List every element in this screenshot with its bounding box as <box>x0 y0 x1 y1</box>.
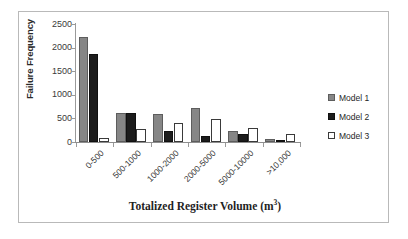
bar-group <box>76 24 113 142</box>
bar <box>164 131 174 142</box>
legend-item[interactable]: Model 3 <box>328 126 386 145</box>
x-axis-tick-mark <box>188 143 189 147</box>
bar <box>248 128 258 142</box>
x-axis-title-suffix: ) <box>277 200 281 212</box>
legend-swatch-model-2-icon <box>328 113 335 120</box>
bar <box>126 113 136 142</box>
x-axis-tick-mark <box>76 143 77 147</box>
bar <box>79 37 89 142</box>
legend-item[interactable]: Model 1 <box>328 88 386 107</box>
plot-area <box>76 24 300 142</box>
y-axis-tick-mark <box>71 142 75 143</box>
y-axis-tick-labels: 05001000150020002500 <box>36 18 72 148</box>
legend-swatch-model-1-icon <box>328 94 335 101</box>
legend-label: Model 3 <box>339 131 369 141</box>
legend-item[interactable]: Model 2 <box>328 107 386 126</box>
bar-group <box>263 24 300 142</box>
bar <box>174 123 184 142</box>
x-axis-tick-mark <box>151 143 152 147</box>
bar <box>286 134 296 142</box>
x-axis-tick-mark <box>300 143 301 147</box>
bar <box>276 140 286 142</box>
y-axis-tick-mark <box>71 118 75 119</box>
y-axis-tick-label: 500 <box>36 113 72 124</box>
y-axis-tick-mark <box>71 48 75 49</box>
y-axis-tick-mark <box>71 24 75 25</box>
chart-legend: Model 1 Model 2 Model 3 <box>328 88 386 145</box>
legend-label: Model 2 <box>339 112 369 122</box>
x-axis-title-text: Totalized Register Volume (m <box>129 200 274 212</box>
bar <box>191 108 201 142</box>
bar <box>265 139 275 142</box>
bar <box>153 114 163 142</box>
bar <box>99 138 109 142</box>
legend-swatch-model-3-icon <box>328 132 335 139</box>
y-axis-tick-mark <box>71 71 75 72</box>
chart-figure: Failure Frequency 05001000150020002500 0… <box>0 0 408 239</box>
bar <box>136 129 146 142</box>
y-axis-tick-label: 1000 <box>36 89 72 100</box>
bar-group <box>151 24 188 142</box>
bar <box>211 119 221 142</box>
x-axis-tick-mark <box>225 143 226 147</box>
bar <box>238 134 248 142</box>
y-axis-tick-label: 0 <box>36 137 72 148</box>
legend-label: Model 1 <box>339 93 369 103</box>
y-axis-tick-label: 1500 <box>36 66 72 77</box>
bar-group <box>188 24 225 142</box>
y-axis-tick-mark <box>71 95 75 96</box>
bar-group <box>225 24 262 142</box>
bar <box>89 54 99 142</box>
x-axis-title: Totalized Register Volume (m3) <box>30 198 380 212</box>
y-axis-tick-label: 2000 <box>36 42 72 53</box>
bar <box>201 136 211 142</box>
x-axis-tick-mark <box>263 143 264 147</box>
bar <box>228 131 238 142</box>
bar-group <box>113 24 150 142</box>
y-axis-tick-label: 2500 <box>36 19 72 30</box>
bar <box>116 113 126 142</box>
x-axis-tick-mark <box>113 143 114 147</box>
